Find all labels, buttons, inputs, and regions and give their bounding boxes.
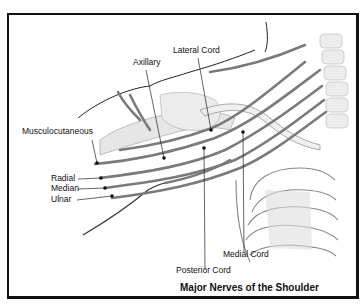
- label-radial: Radial: [51, 174, 75, 183]
- label-posterior-cord: Posterior Cord: [176, 266, 231, 275]
- label-ulnar: Ulnar: [51, 195, 71, 204]
- label-median: Median: [51, 184, 79, 193]
- label-musculocutaneous: Musculocutaneous: [22, 127, 93, 136]
- figure-title: Major Nerves of the Shoulder: [180, 283, 319, 293]
- label-lateral-cord: Lateral Cord: [173, 46, 220, 55]
- rib-shading: [265, 190, 312, 250]
- label-medial-cord: Medial Cord: [223, 250, 269, 259]
- neck-line: [265, 22, 267, 52]
- label-axillary: Axillary: [133, 58, 160, 67]
